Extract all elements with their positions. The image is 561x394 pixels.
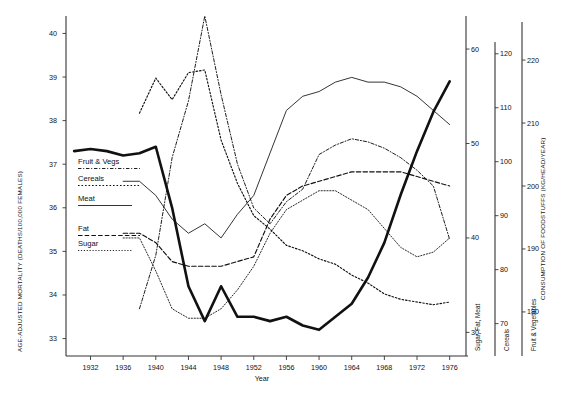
left-tick-label: 39 <box>49 73 57 82</box>
right-tick-label: 220 <box>527 56 539 65</box>
left-tick-label: 33 <box>49 334 57 343</box>
left-tick-label: 38 <box>49 116 57 125</box>
chart-figure: AGE-ADJUSTED MORTALITY (DEATHS/100,000 F… <box>0 0 561 394</box>
legend-label-fruit-vegs: Fruit & Vegs <box>78 157 119 166</box>
x-tick-label: 1936 <box>111 363 135 372</box>
right-tick-label: 100 <box>500 157 512 166</box>
x-tick-label: 1972 <box>405 363 429 372</box>
right-axis-name: Sugar, Fat, Meat <box>474 304 481 351</box>
x-tick-label: 1932 <box>78 363 102 372</box>
right-tick-label: 50 <box>471 139 479 148</box>
legend-label-cereals: Cereals <box>78 174 104 183</box>
legend-label-sugar: Sugar <box>78 239 98 248</box>
right-tick-label: 190 <box>527 244 539 253</box>
x-tick-label: 1964 <box>340 363 364 372</box>
x-tick-label: 1968 <box>372 363 396 372</box>
x-tick-label: 1956 <box>274 363 298 372</box>
left-tick-label: 34 <box>49 290 57 299</box>
left-tick-label: 37 <box>49 160 57 169</box>
x-tick-label: 1940 <box>144 363 168 372</box>
right-axis-name: Fruit & Vegetables <box>530 299 537 351</box>
x-tick-label: 1944 <box>176 363 200 372</box>
right-tick-label: 40 <box>471 233 479 242</box>
x-tick-label: 1948 <box>209 363 233 372</box>
left-tick-label: 36 <box>49 203 57 212</box>
x-tick-label: 1976 <box>438 363 462 372</box>
legend-label-fat: Fat <box>78 224 89 233</box>
legend-label-meat: Meat <box>78 194 95 203</box>
right-tick-label: 60 <box>471 45 479 54</box>
right-tick-label: 80 <box>500 265 508 274</box>
right-axis-name: Cereals <box>503 329 510 351</box>
right-tick-label: 90 <box>500 211 508 220</box>
right-tick-label: 120 <box>500 49 512 58</box>
left-tick-label: 35 <box>49 247 57 256</box>
right-tick-label: 110 <box>500 103 511 112</box>
right-tick-label: 200 <box>527 182 539 191</box>
series-line <box>139 16 449 309</box>
right-tick-label: 210 <box>527 119 539 128</box>
x-tick-label: 1952 <box>242 363 266 372</box>
right-tick-label: 70 <box>500 319 508 328</box>
x-tick-label: 1960 <box>307 363 331 372</box>
left-tick-label: 40 <box>49 29 57 38</box>
